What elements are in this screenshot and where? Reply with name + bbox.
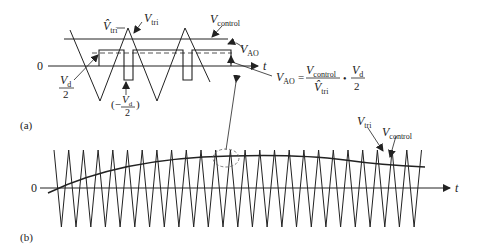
panel-b-tag: (b) <box>20 231 33 244</box>
svg-text:VAO: VAO <box>276 70 295 86</box>
zero-label-a: 0 <box>37 59 43 73</box>
zoom-connector <box>226 82 236 150</box>
svg-text:2: 2 <box>125 107 130 118</box>
svg-text:Vd: Vd <box>352 63 363 79</box>
vao-label-a: VAO <box>240 42 259 58</box>
t-label-a: t <box>263 59 267 73</box>
svg-text:Vd: Vd <box>122 93 133 108</box>
vtri-label-b: Vtri <box>357 114 372 130</box>
svg-text:=: = <box>298 71 304 83</box>
pwm-output-waveform <box>99 50 231 80</box>
vtri-arrow-b <box>368 128 383 151</box>
vcontrol-label-b: Vcontrol <box>382 125 413 141</box>
zero-label-b: 0 <box>31 181 37 195</box>
vtri-arrow-a <box>134 22 142 33</box>
vtri-peak-label: V̂tri <box>103 19 118 35</box>
vtri-label-a: Vtri <box>144 11 159 27</box>
svg-text:2: 2 <box>354 80 360 92</box>
vcontrol-label-a: Vcontrol <box>210 12 241 28</box>
svg-text:V̂tri: V̂tri <box>314 80 329 96</box>
vd-half-label: Vd 2 <box>59 73 74 100</box>
svg-text:(−: (− <box>111 98 121 111</box>
svg-text:Vcontrol: Vcontrol <box>306 63 337 79</box>
panel-a-tag: (a) <box>20 119 33 132</box>
panel-b: 0 t Vtri Vcontrol (b) <box>20 114 459 244</box>
vao-formula: VAO = Vcontrol V̂tri • Vd 2 <box>276 63 365 96</box>
svg-text:Vd: Vd <box>60 73 71 89</box>
panel-a: 0 t V̂tri Vtri Vcontrol VAO <box>20 11 365 132</box>
vcontrol-curve-b <box>48 156 425 194</box>
pwm-diagram: 0 t V̂tri Vtri Vcontrol VAO <box>0 0 478 252</box>
t-label-b: t <box>455 181 459 195</box>
svg-text:): ) <box>136 98 140 111</box>
svg-text:2: 2 <box>63 88 69 100</box>
svg-text:•: • <box>343 73 347 84</box>
neg-vd-half-label: (− Vd 2 ) <box>111 93 140 118</box>
vd2-arrow <box>74 55 98 80</box>
